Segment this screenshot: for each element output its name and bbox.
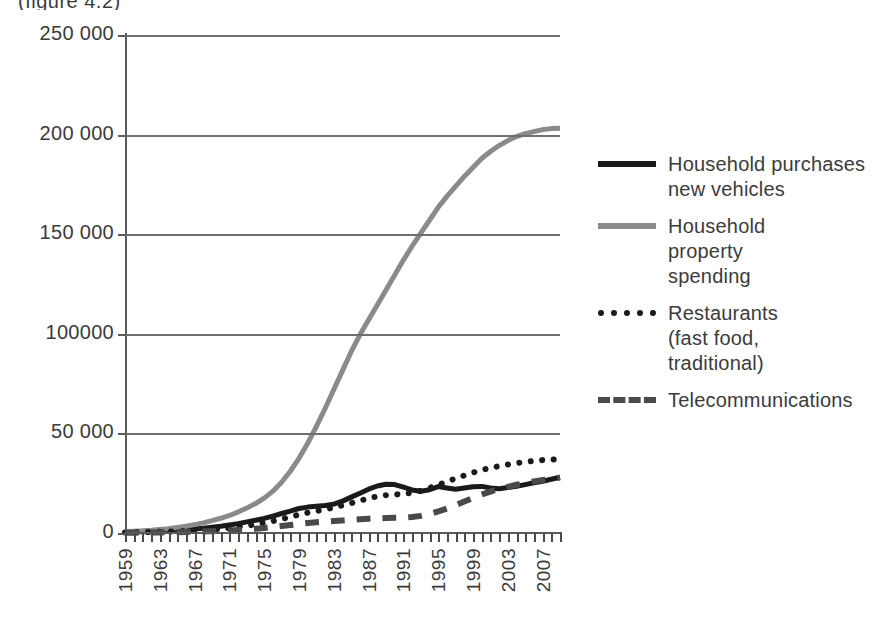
x-axis-tick [195, 533, 197, 542]
x-axis-tick [247, 533, 249, 542]
x-axis-tick [456, 533, 458, 542]
legend-item[interactable]: Household property spending [596, 214, 891, 289]
gridline [125, 433, 560, 435]
x-axis-tick [360, 533, 362, 542]
series-line [125, 128, 560, 531]
x-axis-tick-label: 1967 [185, 548, 207, 592]
x-axis-tick [142, 533, 144, 542]
y-axis-tick-label: 100000 [6, 321, 114, 344]
x-axis-tick [560, 533, 562, 542]
chart-legend: Household purchases new vehiclesHousehol… [596, 152, 891, 425]
x-axis-tick [412, 533, 414, 542]
legend-item-label: Telecommunications [668, 388, 853, 413]
x-axis-tick [525, 533, 527, 542]
y-axis-tick-label: 50 000 [6, 420, 114, 443]
legend-line-swatch [598, 223, 656, 229]
x-axis-tick [499, 533, 501, 542]
x-axis-tick [377, 533, 379, 542]
legend-marker-icon [596, 388, 658, 412]
x-axis-tick-label: 1959 [115, 548, 137, 592]
x-axis-tick [334, 533, 336, 542]
x-axis-tick [169, 533, 171, 542]
x-axis-tick [464, 533, 466, 542]
x-axis-tick [160, 533, 162, 542]
x-axis-tick [308, 533, 310, 542]
y-axis-tick-label: 250 000 [6, 22, 114, 45]
legend-marker-icon [596, 301, 658, 325]
legend-marker-icon [596, 152, 658, 176]
x-axis-tick [351, 533, 353, 542]
x-axis-tick [221, 533, 223, 542]
x-axis-tick [299, 533, 301, 542]
legend-item-label: Household purchases new vehicles [668, 152, 865, 202]
legend-item-label: Restaurants (fast food, traditional) [668, 301, 778, 376]
y-axis-tick [118, 135, 126, 137]
x-axis-tick [551, 533, 553, 542]
legend-item[interactable]: Telecommunications [596, 388, 891, 413]
x-axis-tick-label: 1963 [150, 548, 172, 592]
legend-item-label: Household property spending [668, 214, 765, 289]
legend-line-swatch [598, 161, 656, 167]
x-axis-ticks [125, 533, 562, 543]
line-chart: 050 000100000150 000200 000250 000 19591… [0, 0, 600, 617]
x-axis-tick [212, 533, 214, 542]
gridline [125, 234, 560, 236]
x-axis-tick [403, 533, 405, 542]
x-axis-tick-label: 1999 [463, 548, 485, 592]
x-axis-tick-label: 2003 [498, 548, 520, 592]
x-axis-tick [186, 533, 188, 542]
y-axis-labels: 050 000100000150 000200 000250 000 [0, 0, 114, 617]
legend-marker-icon [596, 214, 658, 238]
x-axis-tick [421, 533, 423, 542]
x-axis-tick-label: 1971 [219, 548, 241, 592]
gridline [125, 135, 560, 137]
x-axis-tick [430, 533, 432, 542]
y-axis-tick [118, 433, 126, 435]
y-axis-tick-label: 150 000 [6, 221, 114, 244]
y-axis-tick [118, 334, 126, 336]
x-axis-tick [177, 533, 179, 542]
x-axis-tick [238, 533, 240, 542]
y-axis-tick [118, 35, 126, 37]
x-axis-tick [447, 533, 449, 542]
x-axis-tick [517, 533, 519, 542]
x-axis-tick [534, 533, 536, 542]
legend-item[interactable]: Restaurants (fast food, traditional) [596, 301, 891, 376]
x-axis-tick-label: 1995 [428, 548, 450, 592]
x-axis-tick [343, 533, 345, 542]
x-axis-tick [290, 533, 292, 542]
x-axis-tick [395, 533, 397, 542]
x-axis-tick [482, 533, 484, 542]
x-axis-tick [490, 533, 492, 542]
x-axis-tick [369, 533, 371, 542]
x-axis-tick [229, 533, 231, 542]
x-axis-tick [386, 533, 388, 542]
x-axis-tick [264, 533, 266, 542]
x-axis-tick [325, 533, 327, 542]
x-axis-tick [256, 533, 258, 542]
x-axis-tick-label: 1979 [289, 548, 311, 592]
legend-line-swatch [598, 310, 656, 316]
y-axis-tick [118, 533, 126, 535]
x-axis-tick [273, 533, 275, 542]
y-axis-tick-label: 0 [6, 520, 114, 543]
x-axis-tick [438, 533, 440, 542]
x-axis-tick-label: 1975 [254, 548, 276, 592]
x-axis-tick [203, 533, 205, 542]
x-axis-tick [508, 533, 510, 542]
y-axis-tick-label: 200 000 [6, 122, 114, 145]
y-axis-tick [118, 234, 126, 236]
series-layer [125, 35, 560, 533]
gridline [125, 334, 560, 336]
x-axis-tick-label: 1991 [393, 548, 415, 592]
legend-item[interactable]: Household purchases new vehicles [596, 152, 891, 202]
chart-page: (figure 4.2) 050 000100000150 000200 000… [0, 0, 891, 617]
x-axis-tick-label: 1987 [359, 548, 381, 592]
x-axis-tick [151, 533, 153, 542]
x-axis-tick [282, 533, 284, 542]
x-axis-tick [473, 533, 475, 542]
x-axis-tick [134, 533, 136, 542]
x-axis-tick-label: 2007 [533, 548, 555, 592]
legend-line-swatch [598, 397, 656, 403]
x-axis-tick [316, 533, 318, 542]
